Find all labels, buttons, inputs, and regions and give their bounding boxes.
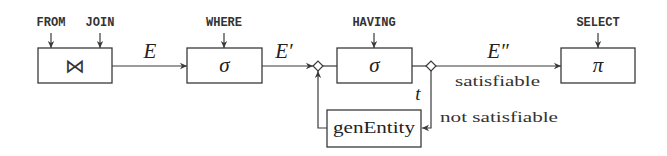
- edge-label-e: E: [143, 39, 157, 63]
- branch-diamond: [426, 61, 436, 71]
- having-node: σ: [337, 48, 412, 83]
- gen-entity-label: genEntity: [333, 119, 415, 137]
- having-input-label: HAVING: [352, 16, 395, 30]
- from-input-label: FROM: [37, 16, 66, 30]
- having-selection-symbol: σ: [369, 53, 381, 77]
- selection-symbol: σ: [219, 53, 231, 77]
- not-satisfiable-label: not satisfiable: [440, 109, 558, 125]
- edge-gen-entity-loop-back: [318, 71, 327, 128]
- join-input-label: JOIN: [86, 16, 115, 30]
- query-pipeline-diagram: FROM JOIN WHERE HAVING SELECT ⋈ σ σ π ge…: [0, 0, 667, 156]
- edge-branch-to-gen-entity: [422, 71, 431, 128]
- where-node: σ: [187, 48, 262, 83]
- gen-entity-node: genEntity: [327, 110, 421, 147]
- select-node: π: [561, 48, 635, 83]
- satisfiable-label: satisfiable: [455, 73, 540, 89]
- projection-symbol: π: [593, 53, 604, 77]
- merge-diamond: [313, 61, 323, 71]
- join-symbol: ⋈: [65, 54, 85, 78]
- edge-label-t: t: [415, 83, 421, 104]
- where-input-label: WHERE: [206, 16, 242, 30]
- select-input-label: SELECT: [576, 16, 619, 30]
- join-node: ⋈: [38, 48, 112, 83]
- edge-label-e-double-prime: E″: [486, 39, 509, 63]
- edge-label-e-prime: E′: [274, 39, 293, 63]
